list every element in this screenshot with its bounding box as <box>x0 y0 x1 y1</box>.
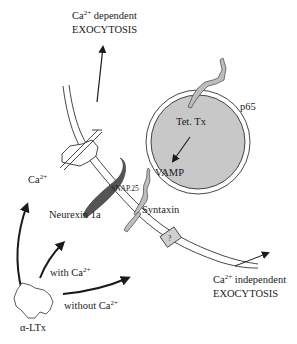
ca-independent-label: Ca2+ independent <box>213 273 286 285</box>
synaptic-vesicle <box>146 90 250 194</box>
arrow-without-calcium <box>63 278 128 294</box>
arrow-ca-independent <box>235 253 268 266</box>
arrow-ca-dependent <box>97 47 103 102</box>
vamp-label: VAMP <box>155 167 184 178</box>
arrow-to-calcium <box>17 205 27 291</box>
exocytosis-independent-label: EXOCYTOSIS <box>213 288 278 299</box>
tetanus-toxin-label: Tet. Tx <box>176 116 207 127</box>
snap25-label: SNAP.25 <box>111 184 139 193</box>
diagram-canvas: ? Ca2+ dependent EXOCYTOSIS p65 Tet. Tx … <box>0 0 297 344</box>
neurexin-label: Neurexin 1a <box>49 209 101 220</box>
alpha-ltx-label: α-LTx <box>20 322 47 333</box>
calcium-channel <box>60 130 102 170</box>
exocytosis-dependent-label: EXOCYTOSIS <box>72 24 137 35</box>
alpha-latrotoxin <box>14 283 53 318</box>
syntaxin-label: Syntaxin <box>142 204 180 215</box>
ca-dependent-label: Ca2+ dependent <box>72 9 137 21</box>
p65-label: p65 <box>240 101 256 112</box>
with-calcium-label: with Ca2+ <box>50 266 90 278</box>
without-calcium-label: without Ca2+ <box>64 299 118 311</box>
calcium-ion-label: Ca2+ <box>28 173 47 185</box>
